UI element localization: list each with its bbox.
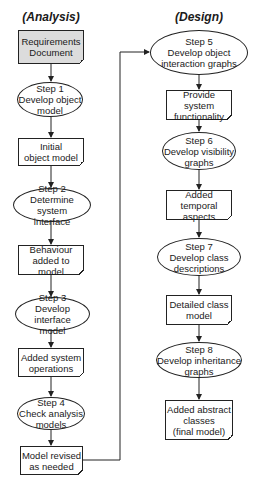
node-label: Develop interface xyxy=(16,303,89,325)
node-label: Step 8 xyxy=(157,344,241,355)
node-label: Step 3 xyxy=(16,292,89,303)
node-label: Develop inheritance xyxy=(157,355,241,366)
step-6-node: Step 6Develop visibilitygraphs xyxy=(162,132,236,170)
step-3-node: Step 3Develop interfacemodel xyxy=(15,297,90,331)
node-label: object model xyxy=(24,152,78,163)
node-label: Step 5 xyxy=(161,36,237,47)
design-heading: (Design) xyxy=(149,10,249,24)
node-label: Requirements xyxy=(21,36,80,47)
node-label: model xyxy=(16,325,89,336)
node-label: Detailed class xyxy=(169,299,228,310)
behaviour-added-node: Behaviouradded to model xyxy=(18,245,84,275)
analysis-heading: (Analysis) xyxy=(1,10,101,24)
node-label: interface xyxy=(14,216,90,227)
node-label: Step 1 xyxy=(19,83,82,94)
node-label: Model revised xyxy=(22,450,81,461)
provide-system-functionality-node: Provide systemfunctionality xyxy=(166,90,232,120)
added-temporal-aspects-node: Added temporalaspects xyxy=(166,190,232,220)
node-label: Behaviour xyxy=(19,244,83,255)
node-label: interaction graphs xyxy=(161,58,237,69)
step-2-node: Step 2Determine systeminterface xyxy=(13,188,91,222)
node-label: Step 6 xyxy=(164,135,234,146)
node-label: model xyxy=(19,105,82,116)
node-label: Develop object xyxy=(19,94,82,105)
node-label: (final model) xyxy=(167,426,231,437)
node-label: Step 7 xyxy=(169,241,228,252)
node-label: model xyxy=(169,310,228,321)
step-8-node: Step 8Develop inheritancegraphs xyxy=(156,342,242,378)
node-label: Provide system xyxy=(167,89,231,111)
node-label: graphs xyxy=(157,366,241,377)
node-label: Develop visibility xyxy=(164,146,234,157)
node-label: as needed xyxy=(22,461,81,472)
node-label: models xyxy=(19,419,83,430)
step-7-node: Step 7Develop classdescriptions xyxy=(157,238,241,276)
node-label: functionality xyxy=(167,111,231,122)
step-5-node: Step 5Develop objectinteraction graphs xyxy=(150,30,248,75)
node-label: Develop object xyxy=(161,47,237,58)
node-label: classes xyxy=(167,415,231,426)
node-label: added to model xyxy=(19,255,83,277)
model-revised-node: Model revisedas needed xyxy=(20,446,83,475)
node-label: graphs xyxy=(164,157,234,168)
node-label: Step 4 xyxy=(19,397,83,408)
node-label: Document xyxy=(21,47,80,58)
node-label: Step 2 xyxy=(14,183,90,194)
node-label: Develop class xyxy=(169,252,228,263)
requirements-document-node: RequirementsDocument xyxy=(18,30,84,64)
initial-object-model-node: Initialobject model xyxy=(18,138,84,166)
detailed-class-model-node: Detailed classmodel xyxy=(166,295,232,325)
node-label: Added system xyxy=(21,352,81,363)
node-label: Initial xyxy=(24,141,78,152)
added-system-operations-node: Added systemoperations xyxy=(18,348,84,377)
node-label: descriptions xyxy=(169,263,228,274)
node-label: Determine system xyxy=(14,194,90,216)
added-abstract-classes-node: Added abstractclasses(final model) xyxy=(165,400,233,440)
node-label: Added temporal xyxy=(167,189,231,211)
step-1-node: Step 1Develop objectmodel xyxy=(17,82,83,117)
node-label: Check analysis xyxy=(19,408,83,419)
node-label: aspects xyxy=(167,211,231,222)
node-label: operations xyxy=(21,363,81,374)
step-4-node: Step 4Check analysismodels xyxy=(17,397,85,430)
node-label: Added abstract xyxy=(167,404,231,415)
